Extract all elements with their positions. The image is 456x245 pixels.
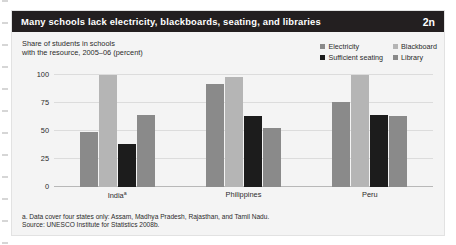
chart-bar	[332, 102, 350, 187]
chart-notes: a. Data cover four states only: Assam, M…	[22, 213, 269, 229]
figure-panel: Many schools lack electricity, blackboar…	[11, 10, 445, 236]
chart-x-axis-category-label: Philippines	[180, 190, 306, 199]
scan-edge-artifact	[2, 0, 8, 245]
chart-subtitle-line2: with the resource, 2005–06 (percent)	[22, 48, 252, 57]
chart-footnote: a. Data cover four states only: Assam, M…	[22, 213, 269, 221]
legend-label-sufficient-seating: Sufficient seating	[328, 53, 383, 62]
chart-bar	[263, 128, 281, 187]
chart-bar-group: Philippines	[180, 75, 306, 187]
chart-bar-groups: IndiaaPhilippinesPeru	[54, 75, 433, 187]
chart-subtitle-line1: Share of students in schools	[22, 39, 252, 48]
page-title: Many schools lack electricity, blackboar…	[21, 16, 321, 27]
chart-bar	[99, 75, 117, 187]
chart-bar	[80, 132, 98, 187]
chart-bar	[351, 75, 369, 187]
figure-title-bar: Many schools lack electricity, blackboar…	[12, 11, 444, 32]
chart-legend: Electricity Blackboard Sufficient seatin…	[320, 42, 437, 62]
chart-bar	[137, 115, 155, 187]
figure-page: Many schools lack electricity, blackboar…	[0, 0, 456, 245]
chart-bar-group: Peru	[307, 75, 433, 187]
legend-swatch-icon-electricity	[320, 44, 325, 49]
chart-bar	[225, 77, 243, 187]
legend-item-sufficient-seating: Sufficient seating	[320, 53, 383, 62]
legend-swatch-icon-blackboard	[393, 44, 398, 49]
chart-bar	[370, 115, 388, 187]
chart-bar	[244, 116, 262, 187]
chart-y-axis-tick-label: 50	[41, 126, 49, 135]
chart-bar	[118, 144, 136, 187]
chart-y-axis-tick-label: 100	[37, 70, 49, 79]
chart-bar	[206, 84, 224, 187]
chart-bar	[389, 116, 407, 187]
legend-label-electricity: Electricity	[328, 42, 359, 51]
chart-y-axis-tick-label: 75	[41, 98, 49, 107]
chart-category-footnote-marker: a	[124, 190, 127, 196]
legend-item-library: Library	[393, 53, 437, 62]
chart-y-axis-tick-label: 0	[45, 182, 49, 191]
chart-x-axis-category-label: Indiaa	[54, 190, 180, 200]
chart-plot-area: 0255075100 IndiaaPhilippinesPeru	[54, 75, 433, 187]
chart-x-axis-category-label: Peru	[307, 190, 433, 199]
chart-source: Source: UNESCO Institute for Statistics …	[22, 221, 269, 229]
chart-subtitle: Share of students in schools with the re…	[22, 39, 252, 58]
legend-item-electricity: Electricity	[320, 42, 383, 51]
chart-bar-group: Indiaa	[54, 75, 180, 187]
legend-swatch-icon-library	[393, 55, 398, 60]
figure-number: 2n	[423, 16, 435, 28]
legend-label-library: Library	[401, 53, 423, 62]
chart-y-axis-tick-label: 25	[41, 154, 49, 163]
legend-label-blackboard: Blackboard	[401, 42, 437, 51]
legend-item-blackboard: Blackboard	[393, 42, 437, 51]
legend-swatch-icon-sufficient-seating	[320, 55, 325, 60]
